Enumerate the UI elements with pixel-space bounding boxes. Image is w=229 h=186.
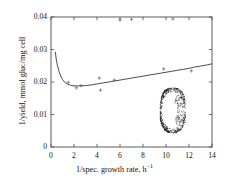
cluster-point <box>171 130 172 131</box>
cluster-point <box>163 92 164 93</box>
cluster-point <box>167 127 168 128</box>
cluster-point <box>183 122 184 123</box>
cluster-point <box>185 104 186 105</box>
cluster-point <box>181 92 182 93</box>
cluster-point <box>179 97 180 98</box>
cluster-point <box>178 115 179 116</box>
cluster-point <box>183 96 184 97</box>
cluster-point <box>183 124 184 125</box>
cluster-point <box>180 92 181 93</box>
cluster-point <box>165 92 166 93</box>
cluster-point <box>166 128 167 129</box>
cluster-point <box>183 98 184 99</box>
cluster-point <box>176 124 177 125</box>
cluster-point <box>178 130 179 131</box>
cluster-point <box>162 120 163 121</box>
cluster-point <box>175 90 176 91</box>
cluster-point <box>160 113 161 114</box>
cluster-point <box>161 109 162 110</box>
cluster-point <box>175 131 176 132</box>
cluster-point <box>163 124 164 125</box>
cluster-point <box>174 131 175 132</box>
data-point-markers <box>67 17 193 92</box>
cluster-point <box>180 124 181 125</box>
cluster-point <box>179 121 180 122</box>
cluster-point <box>179 120 180 121</box>
cluster-point <box>176 120 177 121</box>
cluster-point <box>180 94 181 95</box>
x-tick-label: 6 <box>111 151 129 160</box>
cluster-point <box>175 103 176 104</box>
cluster-point <box>181 96 182 97</box>
cluster-point <box>169 132 170 133</box>
cluster-point <box>185 107 186 108</box>
model-curve <box>55 52 212 86</box>
cluster-point <box>161 120 162 121</box>
cluster-point <box>183 101 184 102</box>
cluster-point <box>177 89 178 90</box>
cluster-point <box>182 127 183 128</box>
cluster-point <box>162 97 163 98</box>
cluster-point <box>173 89 174 90</box>
cluster-point <box>160 104 161 105</box>
cluster-point <box>162 95 163 96</box>
cluster-point <box>180 102 181 103</box>
cluster-point <box>175 132 176 133</box>
cluster-point <box>182 114 183 115</box>
cluster-point <box>178 119 179 120</box>
cluster-point <box>175 100 176 101</box>
cluster-point <box>160 112 161 113</box>
cluster-point <box>168 92 169 93</box>
cluster-point <box>177 125 178 126</box>
cluster-point <box>184 122 185 123</box>
cluster-point <box>181 104 182 105</box>
cluster-point <box>180 114 181 115</box>
cluster-point <box>179 106 180 107</box>
cluster-point <box>179 95 180 96</box>
cluster-point <box>183 118 184 119</box>
cluster-point <box>177 112 178 113</box>
cluster-point <box>184 106 185 107</box>
cluster-point <box>160 106 161 107</box>
cluster-point <box>163 123 164 124</box>
x-tick-label: 10 <box>157 151 175 160</box>
cluster-point <box>179 100 180 101</box>
cluster-point <box>162 121 163 122</box>
cluster-point <box>167 90 168 91</box>
cluster-point <box>168 131 169 132</box>
cluster-point <box>182 104 183 105</box>
cluster-point <box>177 115 178 116</box>
cluster-point <box>176 91 177 92</box>
cluster-point <box>177 104 178 105</box>
cluster-point <box>181 125 182 126</box>
cluster-point <box>175 130 176 131</box>
cluster-point <box>161 110 162 111</box>
cluster-point <box>176 88 177 89</box>
cluster-point <box>178 88 179 89</box>
cluster-point <box>184 118 185 119</box>
cluster-point <box>164 96 165 97</box>
cluster-point <box>180 128 181 129</box>
cluster-point <box>160 117 161 118</box>
cluster-point <box>177 107 178 108</box>
cluster-point <box>177 110 178 111</box>
cluster-point <box>178 120 179 121</box>
cluster-point <box>184 103 185 104</box>
cluster-point <box>179 89 180 90</box>
cluster-point <box>177 121 178 122</box>
cluster-point <box>180 122 181 123</box>
cluster-point <box>172 88 173 89</box>
cluster-point <box>176 122 177 123</box>
cluster-point <box>160 111 161 112</box>
cluster-point <box>174 132 175 133</box>
cluster-point <box>170 88 171 89</box>
cluster-point <box>182 112 183 113</box>
cluster-point <box>179 112 180 113</box>
cluster-point <box>177 118 178 119</box>
point-cloud-cluster <box>159 87 186 133</box>
cluster-point <box>184 117 185 118</box>
cluster-point <box>166 127 167 128</box>
cluster-point <box>160 114 161 115</box>
cluster-point <box>180 89 181 90</box>
cluster-point <box>178 128 179 129</box>
